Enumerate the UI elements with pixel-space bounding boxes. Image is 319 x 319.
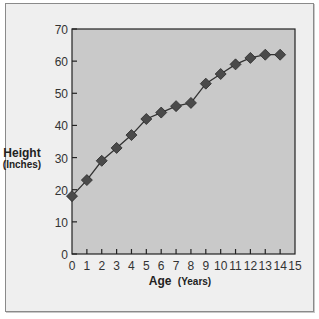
x-tick-label: 12: [244, 259, 258, 273]
y-tick-label: 20: [55, 184, 69, 198]
y-tick-label: 40: [55, 119, 69, 133]
y-axis-title: Height: [3, 146, 40, 160]
x-tick-label: 13: [259, 259, 273, 273]
x-tick-label: 7: [173, 259, 180, 273]
x-tick-label: 4: [128, 259, 135, 273]
height-vs-age-chart: 010203040506070 0123456789101112131415 H…: [0, 0, 319, 319]
x-tick-label: 0: [69, 259, 76, 273]
y-tick-label: 30: [55, 152, 69, 166]
x-axis-title: Age (Years): [149, 274, 211, 288]
y-axis-unit: (Inches): [3, 159, 41, 170]
x-tick-label: 10: [214, 259, 228, 273]
x-tick-label: 11: [229, 259, 242, 273]
x-axis-title-main: Age: [149, 274, 172, 288]
x-tick-label: 2: [98, 259, 105, 273]
plot-area: [72, 29, 295, 254]
x-tick-label: 6: [158, 259, 165, 273]
x-axis-unit: (Years): [178, 276, 211, 287]
x-tick-label: 8: [188, 259, 195, 273]
x-tick-label: 15: [288, 259, 302, 273]
y-tick-label: 50: [55, 87, 69, 101]
x-tick-label: 9: [202, 259, 209, 273]
x-tick-label: 14: [273, 259, 287, 273]
x-tick-label: 1: [84, 259, 91, 273]
y-tick-label: 70: [55, 23, 69, 37]
y-tick-label: 0: [61, 248, 68, 262]
x-tick-label: 3: [113, 259, 120, 273]
y-tick-label: 60: [55, 55, 69, 69]
y-tick-label: 10: [55, 216, 69, 230]
x-tick-label: 5: [143, 259, 150, 273]
